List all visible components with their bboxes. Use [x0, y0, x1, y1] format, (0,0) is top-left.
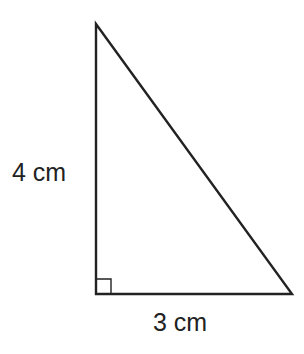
height-label: 4 cm	[12, 160, 66, 185]
base-label: 3 cm	[153, 310, 207, 335]
right-angle-marker	[96, 279, 111, 294]
right-triangle	[96, 24, 292, 294]
